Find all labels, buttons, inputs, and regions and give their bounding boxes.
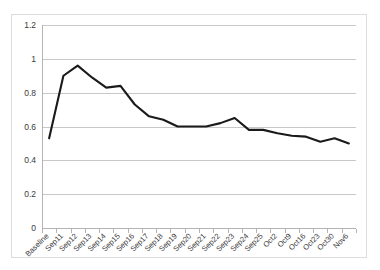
plot-area: 1.210.80.60.40.20 BaselineSep11Sep12Sep1… [0,0,380,270]
y-axis-tick-label: 0.2 [24,189,36,199]
x-axis-tick-label: Nov6 [331,232,350,251]
data-series-line [49,66,349,144]
y-axis-tick-label: 1.2 [24,20,36,30]
y-axis-tick-label: 0 [31,223,36,233]
y-axis-labels: 1.210.80.60.40.20 [24,20,36,233]
x-axis-labels: BaselineSep11Sep12Sep13Sep14Sep15Sep16Se… [24,232,351,259]
y-axis-tick-label: 0.8 [24,88,36,98]
y-axis-tick-label: 0.4 [24,155,36,165]
x-axis-tick-label: Oct2 [261,232,279,250]
y-axis-tick-label: 0.6 [24,122,36,132]
y-axis-tick-label: 1 [31,54,36,64]
line-chart: 1.210.80.60.40.20 BaselineSep11Sep12Sep1… [0,0,380,270]
